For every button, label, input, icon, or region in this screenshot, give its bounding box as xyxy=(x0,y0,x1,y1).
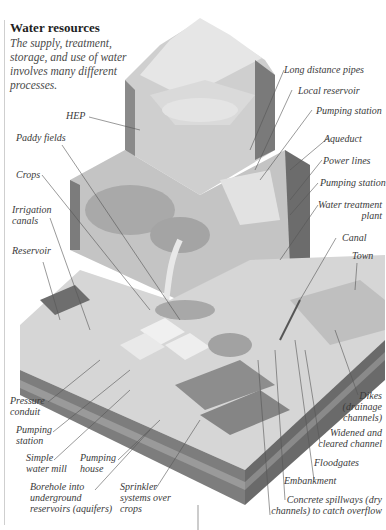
label-paddy-fields: Paddy fields xyxy=(16,132,66,143)
label-pumping-station-left: Pumping station xyxy=(16,424,52,446)
label-simple-water-mill: Simple water mill xyxy=(26,452,67,474)
label-widened-channel: Widened and cleared channel xyxy=(300,427,382,449)
label-long-distance-pipes: Long distance pipes xyxy=(284,64,364,75)
label-crops: Crops xyxy=(16,169,40,180)
label-local-reservoir: Local reservoir xyxy=(298,85,360,96)
page-title: Water resources xyxy=(10,20,100,36)
label-canal: Canal xyxy=(342,232,366,243)
label-pumping-house: Pumping house xyxy=(80,452,116,474)
label-aqueduct: Aqueduct xyxy=(324,133,362,144)
label-irrigation-canals: Irrigation canals xyxy=(12,204,51,226)
label-pumping-station-right: Pumping station xyxy=(320,177,386,188)
label-water-treatment-plant: Water treatment plant xyxy=(318,199,382,221)
label-floodgates: Floodgates xyxy=(314,457,359,468)
intro-text: The supply, treatment, storage, and use … xyxy=(10,36,130,92)
label-power-lines: Power lines xyxy=(323,155,371,166)
label-reservoir: Reservoir xyxy=(12,245,51,256)
label-town: Town xyxy=(352,250,373,261)
label-borehole: Borehole into underground reservoirs (aq… xyxy=(30,481,112,514)
label-concrete-spillways: Concrete spillways (dry channels) to cat… xyxy=(262,494,382,516)
label-pumping-station-top: Pumping station xyxy=(316,105,382,116)
label-hep: HEP xyxy=(66,110,85,121)
label-sprinkler-systems: Sprinkler systems over crops xyxy=(120,481,171,514)
label-pressure-conduit: Pressure conduit xyxy=(10,395,45,417)
label-embankment: Embankment xyxy=(284,475,336,486)
label-dikes: Dikes (drainage channels) xyxy=(330,390,382,423)
